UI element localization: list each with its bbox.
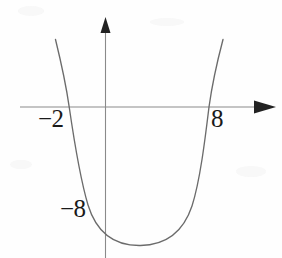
x-axis-tick-label-eight: 8 [211, 106, 223, 131]
x-axis-tick-label-negative-two: −2 [38, 106, 64, 131]
y-axis-arrow-icon [101, 17, 111, 33]
parabola-figure: −2 8 −8 [0, 0, 282, 258]
y-axis-tick-label-negative-eight: −8 [60, 196, 86, 221]
x-axis-arrow-icon [254, 101, 276, 114]
